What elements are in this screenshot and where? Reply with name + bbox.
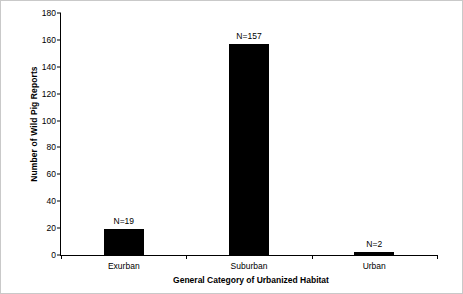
y-tick-mark xyxy=(57,120,61,121)
y-tick-mark xyxy=(57,228,61,229)
x-category-label-urban: Urban xyxy=(363,261,386,271)
y-tick-mark xyxy=(57,93,61,94)
y-tick-label: 180 xyxy=(42,8,56,18)
y-tick-label: 0 xyxy=(51,250,56,260)
x-tick-mark xyxy=(186,255,187,259)
x-tick-mark xyxy=(312,255,313,259)
bar-value-label-urban: N=2 xyxy=(366,239,382,249)
y-tick-mark xyxy=(57,39,61,40)
bar-chart: Number of Wild Pig Reports 0 20 40 60 80… xyxy=(0,0,463,294)
y-tick-label: 80 xyxy=(47,142,56,152)
plot-area: 0 20 40 60 80 100 120 140 160 180 N=19 N… xyxy=(60,13,437,256)
x-tick-mark xyxy=(61,255,62,259)
y-tick-label: 100 xyxy=(42,116,56,126)
y-tick-mark xyxy=(57,174,61,175)
y-tick-label: 140 xyxy=(42,62,56,72)
y-tick-label: 20 xyxy=(47,223,56,233)
x-category-label-suburban: Suburban xyxy=(231,261,268,271)
y-tick-label: 40 xyxy=(47,196,56,206)
x-axis-title: General Category of Urbanized Habitat xyxy=(61,275,441,285)
x-tick-mark xyxy=(437,255,438,259)
bar-value-label-exurban: N=19 xyxy=(114,216,135,226)
x-category-label-exurban: Exurban xyxy=(108,261,140,271)
y-tick-mark xyxy=(57,13,61,14)
y-tick-mark xyxy=(57,147,61,148)
y-tick-label: 120 xyxy=(42,89,56,99)
y-tick-label: 60 xyxy=(47,169,56,179)
y-axis-title: Number of Wild Pig Reports xyxy=(29,34,39,214)
y-tick-label: 160 xyxy=(42,35,56,45)
bar-exurban xyxy=(104,229,144,255)
bar-suburban xyxy=(229,44,269,255)
bar-value-label-suburban: N=157 xyxy=(236,31,261,41)
bar-urban xyxy=(354,252,394,255)
y-tick-mark xyxy=(57,201,61,202)
y-tick-mark xyxy=(57,66,61,67)
